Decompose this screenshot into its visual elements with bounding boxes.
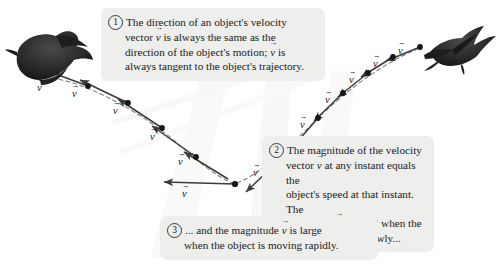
callout-2-line3: object's speed at that instant. The: [269, 187, 426, 216]
vector-label: v: [178, 156, 183, 167]
vector-label: v: [398, 45, 403, 56]
trajectory-point: [232, 181, 238, 187]
trajectory-point: [365, 70, 371, 76]
vector-label: v: [150, 131, 155, 142]
vector-label: v: [349, 74, 354, 85]
callout-1-line4: always tangent to the object's trajector…: [108, 59, 317, 74]
callout-badge-2: 2: [269, 143, 284, 158]
callout-1-line2: vector v is always the same as the: [108, 30, 317, 45]
crow-illustration: [5, 31, 93, 85]
vector-label: v: [253, 167, 258, 178]
trajectory-point: [315, 115, 321, 121]
callout-3-line1: ... and the magnitude v is large: [185, 224, 322, 236]
hawk-illustration: [424, 26, 496, 75]
vector-label: v: [300, 119, 305, 130]
vector-label: v: [113, 105, 118, 116]
trajectory-point: [159, 125, 165, 131]
callout-badge-3: 3: [167, 223, 182, 238]
callout-badge-1: 1: [108, 15, 123, 30]
vector-label: v: [72, 88, 77, 99]
trajectory-point: [340, 90, 346, 96]
callout-2-line2: vector v at any instant equals the: [269, 158, 426, 187]
trajectory-point: [125, 100, 131, 106]
vector-label: v: [37, 82, 42, 93]
vector-label: v: [325, 94, 330, 105]
callout-box-1: 1The direction of an object's velocity v…: [101, 8, 325, 81]
trajectory-point: [85, 83, 91, 89]
vector-label: v: [373, 58, 378, 69]
callout-3-line2: when the object is moving rapidly.: [167, 238, 370, 253]
trajectory-point: [417, 44, 423, 50]
trajectory-point: [193, 154, 199, 160]
callout-box-3: 3... and the magnitude v is large when t…: [160, 216, 378, 260]
callout-1-line3: direction of the object's motion; v is: [108, 45, 317, 60]
callout-2-line1: The magnitude of the velocity: [287, 144, 422, 156]
trajectory-point: [390, 54, 396, 60]
vector-label: v: [182, 188, 187, 199]
callout-1-line1: The direction of an object's velocity: [126, 16, 287, 28]
